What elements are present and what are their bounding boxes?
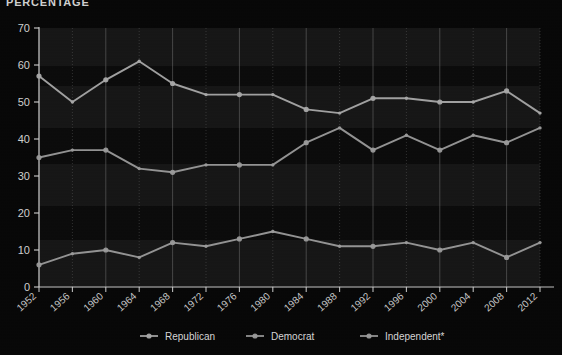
data-point xyxy=(170,240,175,245)
data-point xyxy=(271,230,274,233)
data-point xyxy=(538,126,541,129)
data-point xyxy=(437,148,442,153)
data-point xyxy=(538,111,541,114)
data-point xyxy=(170,81,175,86)
data-point xyxy=(370,148,375,153)
data-point xyxy=(472,134,475,137)
data-point xyxy=(170,170,175,175)
y-tick-label: 70 xyxy=(18,22,30,34)
data-point xyxy=(204,163,207,166)
data-point xyxy=(538,241,541,244)
legend-marker xyxy=(366,333,371,338)
y-tick-label: 50 xyxy=(18,96,30,108)
data-point xyxy=(71,148,74,151)
data-point xyxy=(138,60,141,63)
data-point xyxy=(237,236,242,241)
data-point xyxy=(103,148,108,153)
data-point xyxy=(504,255,509,260)
data-point xyxy=(405,134,408,137)
data-point xyxy=(36,155,41,160)
legend-marker xyxy=(146,333,151,338)
y-tick-label: 60 xyxy=(18,59,30,71)
data-point xyxy=(71,252,74,255)
data-point xyxy=(71,100,74,103)
data-point xyxy=(138,256,141,259)
chart-legend: RepublicanDemocratIndependent* xyxy=(140,331,445,342)
data-point xyxy=(437,247,442,252)
data-point xyxy=(304,107,309,112)
legend-label: Independent* xyxy=(385,331,445,342)
data-point xyxy=(237,92,242,97)
data-point xyxy=(103,77,108,82)
data-point xyxy=(36,74,41,79)
legend-label: Republican xyxy=(165,331,215,342)
y-tick-label: 20 xyxy=(18,207,30,219)
data-point xyxy=(204,245,207,248)
data-point xyxy=(370,96,375,101)
legend-marker xyxy=(252,333,257,338)
data-point xyxy=(103,247,108,252)
line-chart: 010203040506070 195219561960196419681972… xyxy=(0,0,562,355)
data-point xyxy=(504,88,509,93)
legend-label: Democrat xyxy=(271,331,315,342)
data-point xyxy=(204,93,207,96)
data-point xyxy=(437,99,442,104)
data-point xyxy=(271,163,274,166)
chart-title: PERCENTAGE xyxy=(6,0,90,8)
data-point xyxy=(138,167,141,170)
chart-container: PERCENTAGE 010203040506070 1952195619601… xyxy=(0,0,562,355)
y-tick-label: 10 xyxy=(18,244,30,256)
data-point xyxy=(338,126,341,129)
data-point xyxy=(504,140,509,145)
data-point xyxy=(472,100,475,103)
y-tick-label: 30 xyxy=(18,170,30,182)
data-point xyxy=(237,162,242,167)
data-point xyxy=(405,241,408,244)
data-point xyxy=(338,111,341,114)
data-point xyxy=(405,97,408,100)
data-point xyxy=(472,241,475,244)
data-point xyxy=(338,245,341,248)
y-tick-label: 40 xyxy=(18,133,30,145)
data-point xyxy=(304,236,309,241)
data-point xyxy=(271,93,274,96)
data-point xyxy=(304,140,309,145)
data-point xyxy=(370,244,375,249)
data-point xyxy=(36,262,41,267)
